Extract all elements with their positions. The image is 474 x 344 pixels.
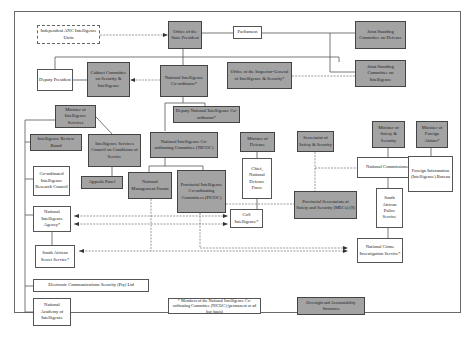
node-parliament: Parliament bbox=[233, 26, 262, 39]
node-minister-safety: Minister of Safety & Security bbox=[372, 121, 405, 148]
node-cos-intelligence: CoS Intelligence* bbox=[230, 209, 263, 228]
node-nia: National Intelligence Agency* bbox=[33, 206, 71, 232]
node-jsc-defence: Joint Standing Committee on Defence bbox=[355, 21, 406, 49]
node-nicoc: National Intelligence Co-ordinating Comm… bbox=[150, 132, 218, 158]
node-review-board: Intelligence Review Board bbox=[30, 134, 82, 151]
node-research-council: Co-ordinated Intelligence Research Counc… bbox=[33, 166, 70, 196]
node-inspector-general: Office of the Inspector-General of Intel… bbox=[227, 62, 292, 89]
node-services-council: Intelligence Services Council on Conditi… bbox=[88, 134, 141, 167]
node-comsec: Electronic Communications Security (Pty)… bbox=[33, 279, 149, 292]
node-appeals-panel: Appeals Panel bbox=[81, 176, 123, 189]
node-jsc-intelligence: Joint Standing Committee on Intelligence bbox=[355, 60, 406, 87]
node-academy: National Academy of Intelligence bbox=[33, 298, 71, 326]
node-ncis: National Crime Investigation Service* bbox=[357, 238, 403, 263]
node-secretariat: Secretariat of Safety & Security bbox=[297, 131, 334, 152]
node-fib: Foreign Information (Intelligence) Burea… bbox=[408, 156, 453, 192]
node-state-president: Office of the State President bbox=[168, 21, 202, 49]
node-provincial-mecs: Provincial Secretariats of Safety and Se… bbox=[294, 191, 357, 219]
node-minister-foreign: Minister of Foreign Affairs* bbox=[416, 121, 448, 148]
node-management-forum: National Management Forum bbox=[128, 172, 172, 199]
node-sass: South African Secret Service* bbox=[35, 245, 75, 268]
node-minister-intelligence: Minister of Intelligence Services bbox=[55, 105, 96, 128]
node-picoc: Provincial Intelligence Co-ordinating Co… bbox=[177, 170, 226, 213]
node-national-coordinator: National Intelligence Co-ordinator* bbox=[160, 65, 208, 97]
node-deputy-president: Deputy President bbox=[37, 69, 73, 91]
node-anc-units: Independent ANC Intelligence Units bbox=[37, 25, 100, 44]
node-cabinet-committee: Cabinet Committee on Security & Intellig… bbox=[87, 62, 130, 97]
node-saps: South African Police Service bbox=[376, 188, 403, 228]
node-minister-defence: Minister of Defence bbox=[240, 132, 275, 152]
node-deputy-coordinator: Deputy National Intelligence Co-ordinato… bbox=[173, 106, 240, 123]
legend-footnote: * Members of the National Intelligence C… bbox=[168, 298, 261, 314]
legend-grey-key: Oversight and Accountability Structures bbox=[297, 297, 365, 315]
node-sandf-chief: Chief, National Defence Force bbox=[242, 158, 272, 199]
